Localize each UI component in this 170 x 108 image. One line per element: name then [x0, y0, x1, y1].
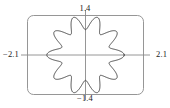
axis-label-right: 2.1: [156, 50, 167, 59]
axis-label-top: 1.4: [0, 4, 170, 13]
polar-plot-figure: 1.4 −1.4 −2.1 2.1: [0, 0, 170, 108]
plot-canvas: [0, 0, 170, 108]
axis-label-left: −2.1: [3, 50, 19, 59]
axis-label-bottom: −1.4: [0, 94, 170, 103]
